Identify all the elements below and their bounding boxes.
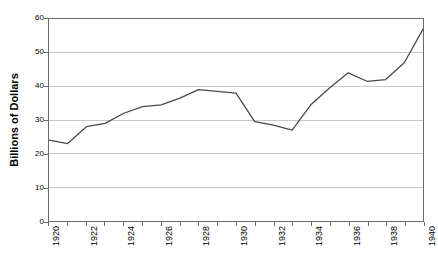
x-tick-label: 1940 — [428, 226, 437, 246]
chart-container: Billions of Dollars 0102030405060 192019… — [0, 0, 438, 273]
y-tick-label: 20 — [35, 150, 44, 158]
x-tick-mark — [424, 222, 425, 226]
plot-svg — [49, 19, 423, 221]
x-tick-label: 1936 — [353, 226, 362, 246]
x-tick-label: 1926 — [165, 226, 174, 246]
x-axis-tick-labels: 1920192219241926192819301932193419361938… — [48, 224, 424, 273]
x-tick-label: 1928 — [202, 226, 211, 246]
y-tick-label: 50 — [35, 48, 44, 56]
x-tick-label: 1924 — [127, 226, 136, 246]
x-tick-label: 1922 — [90, 226, 99, 246]
y-tick-label: 30 — [35, 116, 44, 124]
x-tick-label: 1934 — [315, 226, 324, 246]
y-tick-label: 40 — [35, 82, 44, 90]
x-tick-label: 1930 — [240, 226, 249, 246]
x-tick-label: 1932 — [278, 226, 287, 246]
y-axis-title-label: Billions of Dollars — [8, 73, 20, 167]
y-tick-label: 60 — [35, 14, 44, 22]
x-tick-label: 1920 — [52, 226, 61, 246]
x-tick-label: 1938 — [390, 226, 399, 246]
y-axis-tick-labels: 0102030405060 — [24, 0, 46, 273]
plot-area — [48, 18, 424, 222]
gridlines — [49, 53, 423, 188]
y-tick-label: 10 — [35, 184, 44, 192]
